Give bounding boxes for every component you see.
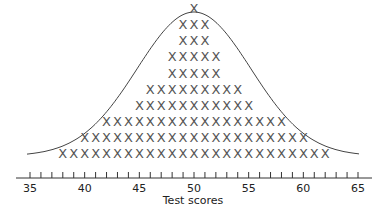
x-mark: X — [200, 17, 209, 32]
x-mark: X — [157, 114, 166, 129]
x-mark: X — [222, 98, 231, 113]
x-mark: X — [211, 98, 220, 113]
x-mark: X — [146, 114, 155, 129]
x-mark: X — [310, 146, 319, 161]
x-mark: X — [244, 114, 253, 129]
x-mark: X — [299, 130, 308, 145]
x-mark: X — [200, 66, 209, 81]
x-mark: X — [222, 82, 231, 97]
x-mark: X — [102, 146, 111, 161]
x-mark: X — [288, 130, 297, 145]
x-mark: X — [179, 17, 188, 32]
x-mark: X — [190, 130, 199, 145]
x-mark: X — [255, 146, 264, 161]
x-mark: X — [211, 114, 220, 129]
x-mark: X — [179, 130, 188, 145]
x-mark: X — [200, 98, 209, 113]
x-mark: X — [200, 130, 209, 145]
x-mark: X — [157, 98, 166, 113]
x-mark: X — [190, 114, 199, 129]
x-mark: X — [69, 146, 78, 161]
x-mark: X — [157, 146, 166, 161]
x-mark: X — [179, 114, 188, 129]
x-mark: X — [321, 146, 330, 161]
x-mark: X — [102, 114, 111, 129]
x-mark: X — [168, 130, 177, 145]
x-mark: X — [190, 49, 199, 64]
x-mark: X — [190, 33, 199, 48]
x-mark: X — [135, 114, 144, 129]
x-mark: X — [179, 66, 188, 81]
x-mark: X — [200, 33, 209, 48]
x-mark: X — [222, 114, 231, 129]
x-mark: X — [266, 114, 275, 129]
x-mark: X — [146, 98, 155, 113]
x-mark: X — [179, 82, 188, 97]
x-mark: X — [233, 130, 242, 145]
x-mark: X — [288, 146, 297, 161]
x-mark: X — [168, 98, 177, 113]
x-mark: X — [135, 146, 144, 161]
x-mark: X — [168, 49, 177, 64]
x-marks: XXXXXXXXXXXXXXXXXXXXXXXXXXXXXXXXXXXXXXXX… — [58, 1, 329, 161]
x-mark: X — [113, 114, 122, 129]
x-axis-tick-label: 55 — [242, 182, 256, 195]
x-axis-tick-label: 60 — [296, 182, 310, 195]
x-mark: X — [179, 33, 188, 48]
x-mark: X — [124, 114, 133, 129]
x-mark: X — [91, 130, 100, 145]
x-mark: X — [211, 82, 220, 97]
x-mark: X — [157, 82, 166, 97]
x-mark: X — [135, 130, 144, 145]
x-mark: X — [200, 49, 209, 64]
x-mark: X — [244, 98, 253, 113]
x-mark: X — [200, 82, 209, 97]
x-mark: X — [266, 130, 275, 145]
x-mark: X — [146, 130, 155, 145]
x-axis-ticks — [30, 172, 358, 178]
x-mark: X — [200, 146, 209, 161]
x-axis-tick-label: 45 — [132, 182, 146, 195]
x-mark: X — [211, 66, 220, 81]
x-mark: X — [233, 82, 242, 97]
x-mark: X — [168, 66, 177, 81]
x-mark: X — [157, 130, 166, 145]
x-mark: X — [211, 146, 220, 161]
x-mark: X — [277, 130, 286, 145]
x-mark: X — [190, 66, 199, 81]
x-axis-tick-label: 35 — [23, 182, 37, 195]
x-mark: X — [233, 98, 242, 113]
x-mark: X — [211, 130, 220, 145]
x-axis-tick-label: 65 — [351, 182, 365, 195]
x-mark: X — [113, 146, 122, 161]
x-mark: X — [277, 114, 286, 129]
x-mark: X — [135, 98, 144, 113]
x-mark: X — [124, 146, 133, 161]
x-mark: X — [233, 146, 242, 161]
x-mark: X — [58, 146, 67, 161]
x-mark: X — [179, 146, 188, 161]
x-mark: X — [102, 130, 111, 145]
x-mark: X — [190, 17, 199, 32]
x-mark: X — [124, 130, 133, 145]
x-mark: X — [222, 130, 231, 145]
x-mark: X — [91, 146, 100, 161]
x-mark: X — [255, 114, 264, 129]
x-mark: X — [211, 49, 220, 64]
x-mark: X — [277, 146, 286, 161]
x-mark: X — [80, 130, 89, 145]
x-mark: X — [168, 82, 177, 97]
x-mark: X — [168, 114, 177, 129]
x-axis-title: Test scores — [162, 194, 224, 207]
x-mark: X — [222, 146, 231, 161]
x-mark: X — [266, 146, 275, 161]
dot-plot-chart: XXXXXXXXXXXXXXXXXXXXXXXXXXXXXXXXXXXXXXXX… — [0, 0, 384, 216]
x-mark: X — [80, 146, 89, 161]
x-mark: X — [168, 146, 177, 161]
x-mark: X — [190, 82, 199, 97]
x-mark: X — [146, 82, 155, 97]
x-axis-tick-label: 40 — [78, 182, 92, 195]
x-mark: X — [179, 98, 188, 113]
x-mark: X — [244, 146, 253, 161]
x-mark: X — [113, 130, 122, 145]
